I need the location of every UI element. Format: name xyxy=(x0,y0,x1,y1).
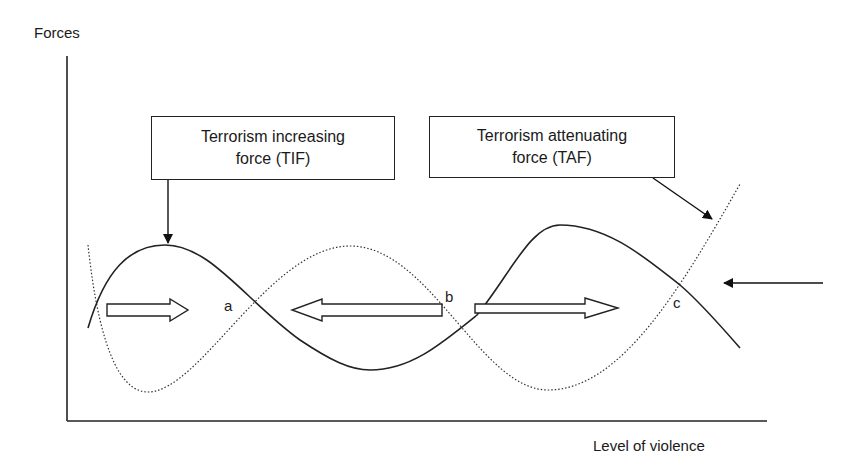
force-equilibrium-diagram: Forces Level of violence Terrorism incre… xyxy=(0,0,858,467)
movement-arrow-right-2 xyxy=(475,298,618,318)
taf-label-line2: force (TAF) xyxy=(477,147,627,169)
tif-label-box: Terrorism increasing force (TIF) xyxy=(151,116,395,180)
taf-label-line1: Terrorism attenuating xyxy=(477,125,627,147)
diagram-canvas xyxy=(0,0,858,467)
y-axis-label: Forces xyxy=(34,24,80,41)
tif-label-line2: force (TIF) xyxy=(201,148,345,170)
tif-curve xyxy=(88,225,740,370)
movement-arrow-right-1 xyxy=(107,299,188,321)
taf-callout-arrow xyxy=(653,178,712,219)
equilibrium-point-a: a xyxy=(224,297,232,314)
movement-arrow-left xyxy=(292,299,442,321)
equilibrium-point-c: c xyxy=(673,294,681,311)
x-axis-label: Level of violence xyxy=(593,437,705,454)
taf-curve xyxy=(88,184,740,392)
equilibrium-point-b: b xyxy=(445,288,453,305)
taf-label-box: Terrorism attenuating force (TAF) xyxy=(429,116,675,178)
tif-label-line1: Terrorism increasing xyxy=(201,126,345,148)
